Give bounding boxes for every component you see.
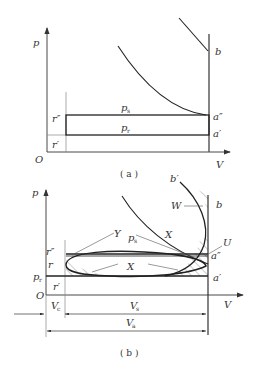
label-b: b [215, 46, 221, 57]
label-r-single: r′ [52, 139, 60, 150]
diagram-canvas: p O V b a″ a′ r″ r′ p s p r ( a ) [0, 0, 259, 372]
label-ps-b-sub: s [134, 237, 137, 244]
caption-b: ( b ) [120, 348, 139, 358]
caption-a: ( a ) [120, 169, 138, 179]
label-a-single: a′ [213, 128, 222, 139]
label-Va-sub: a [132, 322, 136, 329]
label-b-b: b [216, 199, 222, 210]
compression-curve [118, 46, 206, 115]
x-axis-label: V [216, 159, 225, 170]
label-a-single-b: a′ [213, 272, 222, 283]
figure-a: p O V b a″ a′ r″ r′ p s p r ( a ) [33, 18, 230, 179]
label-a-double: a″ [213, 111, 223, 122]
origin-label-b: O [36, 290, 44, 301]
label-ps-sub: s [127, 107, 130, 114]
label-pr-sub: r [127, 127, 130, 134]
label-X-lower: X [126, 261, 135, 272]
label-r-double-b: r″ [46, 246, 55, 257]
expansion-line [179, 18, 208, 51]
label-W: W [171, 200, 182, 211]
x-axis-label-b: V [224, 299, 233, 310]
label-r-b: r [48, 259, 54, 270]
label-X-upper: X [164, 229, 173, 240]
hatch-left [66, 256, 100, 276]
label-r-double: r″ [52, 113, 61, 124]
pressure-rect [66, 115, 209, 135]
label-pr-b-sub: r [39, 276, 42, 283]
figure-b: p O V b′ b W U X X Y p s a″ a′ r″ r p r … [14, 173, 243, 358]
y-axis-label-b: p [32, 187, 39, 198]
label-r-single-b: r′ [53, 281, 61, 292]
label-Vc-sub: c [57, 305, 61, 312]
label-U: U [223, 237, 232, 248]
label-Y: Y [114, 228, 122, 239]
label-Vs-sub: s [136, 305, 139, 312]
label-b-prime: b′ [170, 173, 179, 184]
y-axis-label: p [33, 37, 40, 48]
label-a-double-b: a″ [211, 250, 221, 261]
origin-label: O [35, 154, 43, 165]
